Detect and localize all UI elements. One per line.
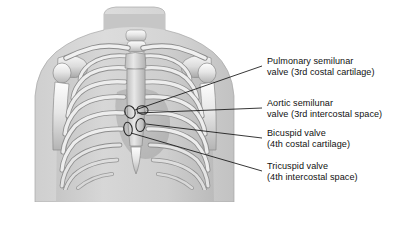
label-line-1: Bicuspid valve [267,128,350,139]
label-line-2: (4th costal cartilage) [267,139,350,150]
label-line-2: valve (3rd costal cartilage) [267,67,375,78]
label-pulmonary-semilunar-valve: Pulmonary semilunar valve (3rd costal ca… [267,56,375,79]
label-line-1: Pulmonary semilunar [267,56,375,67]
sternum-manubrium [125,53,146,70]
label-tricuspid-valve: Tricuspid valve (4th intercostal space) [267,161,358,184]
label-aortic-semilunar-valve: Aortic semilunar valve (3rd intercostal … [267,98,382,121]
label-bicuspid-valve: Bicuspid valve (4th costal cartilage) [267,128,350,151]
label-line-2: valve (3rd intercostal space) [267,109,382,120]
label-line-1: Aortic semilunar [267,98,382,109]
label-line-1: Tricuspid valve [267,161,358,172]
label-line-2: (4th intercostal space) [267,172,358,183]
